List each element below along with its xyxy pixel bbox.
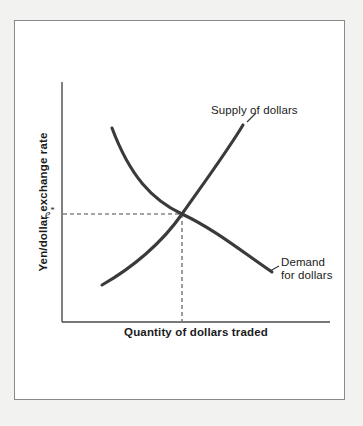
supply-curve — [102, 125, 243, 285]
demand-label-leader — [270, 266, 279, 271]
equilibrium-rate-tick-label: e* — [45, 205, 55, 222]
equilibrium-star: * — [50, 205, 55, 215]
demand-curve-label-line2: for dollars — [281, 269, 333, 281]
demand-curve-label: Demandfor dollars — [281, 256, 333, 282]
figure-root: Supply of dollars Demandfor dollars Yen/… — [0, 0, 363, 426]
demand-curve-label-line1: Demand — [281, 256, 325, 268]
supply-curve-label: Supply of dollars — [211, 104, 298, 117]
x-axis-title: Quantity of dollars traded — [62, 326, 330, 338]
y-axis-title: Yen/dollar exchange rate — [37, 102, 49, 302]
